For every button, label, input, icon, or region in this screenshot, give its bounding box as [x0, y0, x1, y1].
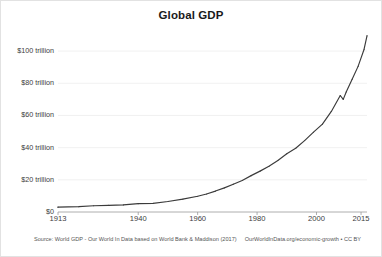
data-point-marker — [286, 153, 287, 154]
data-point-marker — [352, 79, 353, 80]
data-point-marker — [93, 205, 94, 206]
data-point-marker — [108, 205, 109, 206]
y-axis-tick-label: $100 trillion — [17, 47, 54, 54]
plot-svg — [58, 35, 367, 212]
data-point-marker — [331, 111, 332, 112]
data-point-marker — [366, 35, 367, 36]
data-point-marker — [363, 49, 364, 50]
data-point-marker — [78, 206, 79, 207]
data-point-marker — [206, 193, 207, 194]
source-note: Source: World GDP - Our World In Data ba… — [34, 237, 237, 243]
x-axis-tick-label: 2015 — [353, 215, 370, 223]
data-point-marker — [295, 148, 296, 149]
data-point-marker — [358, 66, 359, 67]
data-point-marker — [343, 99, 344, 100]
plot-area — [58, 35, 367, 212]
data-point-marker — [304, 140, 305, 141]
y-axis-tick-label: $60 trillion — [21, 112, 54, 119]
y-axis-tick-label: $80 trillion — [21, 80, 54, 87]
data-point-marker — [259, 171, 260, 172]
data-point-marker — [57, 207, 58, 208]
chart-figure: Global GDP $0$20 trillion$40 trillion$60… — [0, 0, 382, 257]
data-point-marker — [123, 204, 124, 205]
y-axis-tick-labels: $0$20 trillion$40 trillion$60 trillion$8… — [1, 35, 54, 212]
gdp-line-series — [58, 36, 367, 207]
chart-title: Global GDP — [1, 9, 381, 21]
x-axis-tick-label: 1960 — [189, 215, 206, 223]
gridlines — [58, 51, 367, 180]
data-point-marker — [346, 91, 347, 92]
gdp-data-markers — [57, 35, 367, 207]
data-point-marker — [313, 132, 314, 133]
x-axis-tick-label: 1913 — [50, 215, 67, 223]
x-axis-tick-label: 2000 — [308, 215, 325, 223]
y-axis-tick-label: $40 trillion — [21, 144, 54, 151]
data-point-marker — [182, 199, 183, 200]
y-axis-tick-label: $20 trillion — [21, 176, 54, 183]
attribution-note: OurWorldInData.org/economic-growth • CC … — [245, 237, 361, 243]
data-point-marker — [233, 184, 234, 185]
data-point-marker — [167, 201, 168, 202]
x-axis-tick-label: 1940 — [130, 215, 147, 223]
data-point-marker — [197, 196, 198, 197]
data-point-marker — [277, 160, 278, 161]
data-point-marker — [138, 203, 139, 204]
data-point-marker — [268, 166, 269, 167]
data-point-marker — [224, 187, 225, 188]
chart-footer: Source: World GDP - Our World In Data ba… — [1, 237, 381, 249]
data-point-marker — [242, 180, 243, 181]
data-point-marker — [251, 175, 252, 176]
x-axis-tick-label: 1980 — [249, 215, 266, 223]
data-point-marker — [322, 124, 323, 125]
data-point-marker — [153, 203, 154, 204]
data-point-marker — [340, 95, 341, 96]
x-axis-tick-labels: 191319401960198020002015 — [58, 215, 367, 229]
data-point-marker — [215, 191, 216, 192]
